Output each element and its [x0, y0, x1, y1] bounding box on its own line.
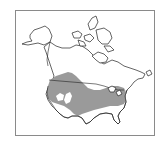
arctic-island-1: [72, 31, 82, 38]
north-america-range-map: [0, 0, 164, 145]
arctic-island-4: [96, 28, 112, 44]
arctic-island-3: [88, 16, 98, 30]
arctic-island-6: [104, 46, 114, 52]
alaska: [22, 26, 52, 45]
arctic-island-2: [84, 34, 94, 42]
arctic-island-5: [78, 40, 86, 46]
newfoundland: [146, 70, 152, 76]
